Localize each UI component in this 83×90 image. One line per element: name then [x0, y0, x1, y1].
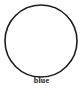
shape-label: blue: [0, 76, 83, 86]
circle-outline-icon: [0, 0, 83, 80]
circle-path: [5, 5, 77, 77]
shape-figure: blue: [0, 0, 83, 90]
